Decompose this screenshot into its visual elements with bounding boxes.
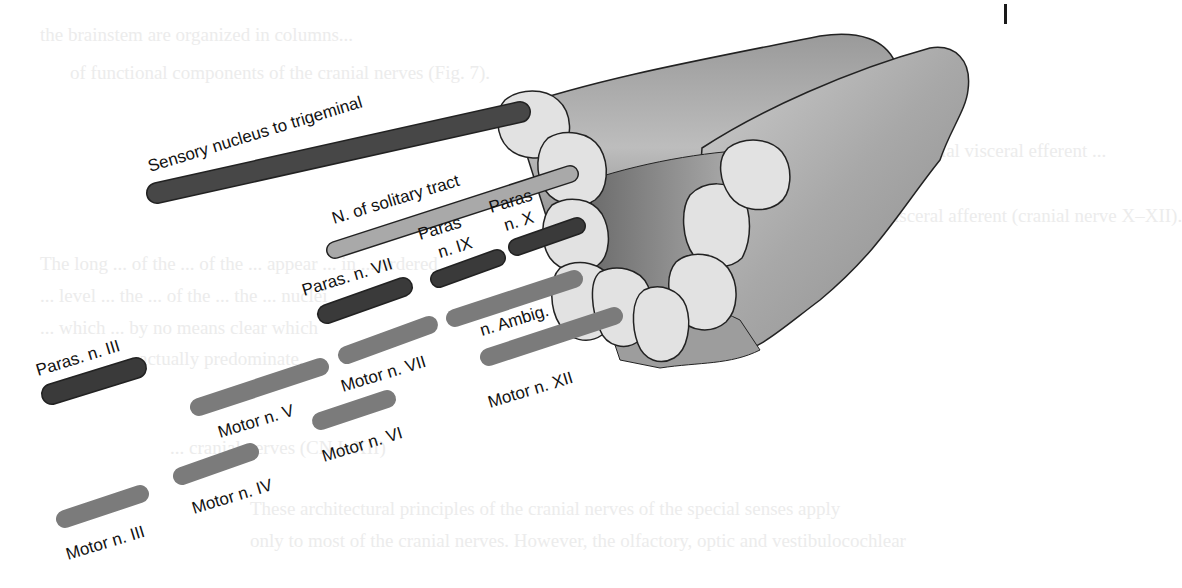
- bar-motor-vi: [321, 399, 387, 421]
- bar-motor-vii: [347, 325, 429, 355]
- label-motor-iv: Motor n. IV: [190, 475, 276, 518]
- bar-motor-iv: [182, 452, 250, 476]
- label-motor-xii: Motor n. XII: [486, 368, 576, 412]
- bar-motor-iii: [65, 494, 140, 519]
- bar-motor-v: [199, 367, 320, 407]
- cross-section-face-9: [633, 287, 688, 362]
- label-motor-vi: Motor n. VI: [320, 423, 405, 465]
- tract-bundle: [498, 34, 969, 368]
- label-motor-iii: Motor n. III: [64, 522, 147, 564]
- label-paras-ix-line2: n. IX: [436, 233, 475, 261]
